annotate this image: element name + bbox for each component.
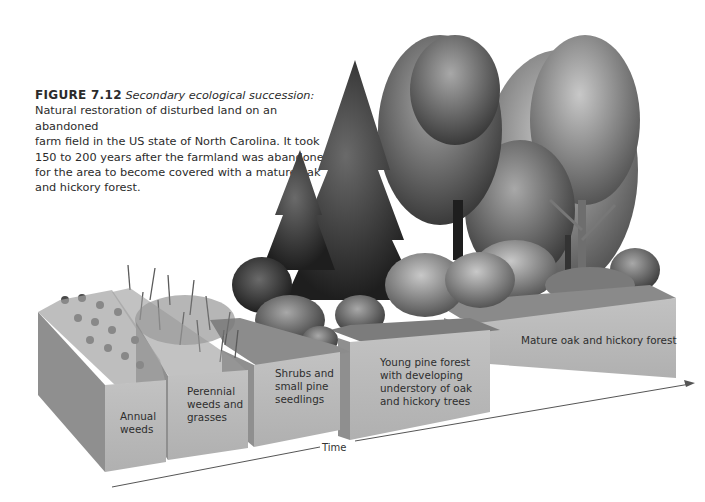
label-line: understory of oak bbox=[380, 382, 472, 394]
succession-illustration bbox=[0, 0, 705, 502]
label-line: grasses bbox=[187, 411, 227, 423]
stage-label-perennial-weeds: Perennial weeds and grasses bbox=[187, 385, 243, 424]
succession-figure: FIGURE 7.12 Secondary ecological success… bbox=[0, 0, 705, 502]
time-axis-label: Time bbox=[320, 442, 348, 453]
label-line: with developing bbox=[380, 369, 463, 381]
label-line: Annual bbox=[120, 410, 156, 422]
label-line: weeds bbox=[120, 423, 153, 435]
label-line: weeds and bbox=[187, 398, 243, 410]
stage-label-annual-weeds: Annual weeds bbox=[120, 410, 156, 436]
label-line: Perennial bbox=[187, 385, 235, 397]
label-line: seedlings bbox=[275, 393, 324, 405]
stage-label-mature-forest: Mature oak and hickory forest bbox=[521, 334, 676, 347]
label-line: Mature oak and hickory forest bbox=[521, 334, 676, 346]
stage-label-shrubs: Shrubs and small pine seedlings bbox=[275, 367, 334, 406]
stage-label-young-pine: Young pine forest with developing unders… bbox=[380, 356, 472, 408]
label-line: Shrubs and bbox=[275, 367, 334, 379]
label-line: Young pine forest bbox=[380, 356, 470, 368]
label-line: small pine bbox=[275, 380, 328, 392]
label-line: and hickory trees bbox=[380, 395, 470, 407]
